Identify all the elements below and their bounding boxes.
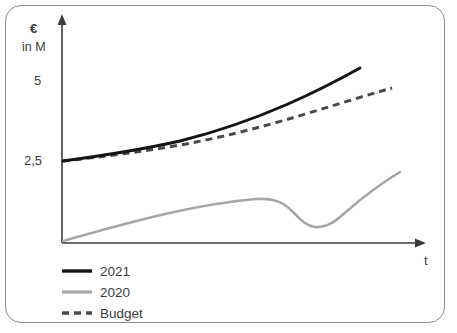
- y-tick-label-5: 5: [34, 73, 41, 88]
- legend-label-budget: Budget: [100, 306, 143, 321]
- y-axis-arrowhead: [58, 14, 67, 25]
- legend-item-2021: 2021: [62, 264, 130, 279]
- legend-label-2021: 2021: [100, 264, 130, 279]
- chart-figure: € in M 5 2,5 t 2021 2020 Budget: [0, 0, 457, 333]
- legend-item-budget: Budget: [62, 306, 143, 321]
- y-axis-unit-sublabel: in M: [22, 40, 46, 54]
- legend-item-2020: 2020: [62, 285, 130, 300]
- series-line-2020: [63, 172, 400, 241]
- chart-legend: 2021 2020 Budget: [62, 264, 143, 321]
- legend-label-2020: 2020: [100, 285, 130, 300]
- line-chart-plot: € in M 5 2,5 t 2021 2020 Budget: [0, 0, 457, 333]
- series-line-budget: [63, 88, 392, 161]
- x-axis-name-label: t: [424, 253, 428, 268]
- y-tick-label-2-5: 2,5: [24, 153, 42, 168]
- y-axis-unit-symbol: €: [30, 21, 37, 36]
- x-axis-arrowhead: [415, 239, 426, 248]
- series-line-2021: [63, 68, 360, 161]
